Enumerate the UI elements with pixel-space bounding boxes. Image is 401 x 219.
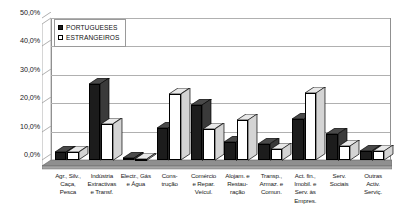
x-axis-label: Cons- trução <box>151 172 189 188</box>
x-axis-label: Serv. Sociais <box>320 172 358 188</box>
gridline <box>51 75 390 76</box>
legend-label-portugueses: PORTUGUESES <box>66 24 118 31</box>
x-axis-label: Alojam. e Restau- ração <box>219 172 257 197</box>
plot-right-border <box>390 18 391 160</box>
y-axis-tick-label: 30,0% <box>2 65 40 74</box>
legend-swatch-icon-portugueses <box>58 25 63 30</box>
gridline-depth-connector <box>42 40 51 48</box>
plot-left-border <box>51 18 52 160</box>
gridline-depth-connector <box>42 154 51 162</box>
x-axis-label: Agr., Silv., Caça, Pesca <box>49 172 87 197</box>
gridline-depth-connector <box>42 69 51 77</box>
legend-swatch-icon-estrangeiros <box>58 35 63 40</box>
y-axis-tick-label: 10,0% <box>2 122 40 131</box>
x-axis-label: Transp., Armaz. e Comun. <box>252 172 290 197</box>
x-axis-label: Indústria Extractivas e Transf. <box>83 172 121 197</box>
gridline <box>51 132 390 133</box>
x-axis-label: Electr., Gás e Água <box>117 172 155 188</box>
x-axis-label: Comércio e Repar. Veícul. <box>185 172 223 197</box>
y-axis-tick-label: 40,0% <box>2 36 40 45</box>
gridline <box>51 103 390 104</box>
legend-label-estrangeiros: ESTRANGEIROS <box>66 34 120 41</box>
bar-chart: 0,0%10,0%20,0%30,0%40,0%50,0% Agr., Silv… <box>0 0 401 219</box>
y-axis-tick-label: 20,0% <box>2 93 40 102</box>
gridline-depth-connector <box>42 126 51 134</box>
legend-item-portugueses: PORTUGUESES <box>58 22 121 32</box>
gridline-depth-connector <box>42 97 51 105</box>
x-axis-label: Act. fin., Imobil. e Serv. às Empres. <box>286 172 324 205</box>
legend-item-estrangeiros: ESTRANGEIROS <box>58 32 121 42</box>
plot-floor <box>42 155 392 171</box>
x-axis-label: Outras Activ. Serviç. <box>354 172 392 197</box>
y-axis-tick-label: 0,0% <box>2 150 40 159</box>
y-axis-tick-label: 50,0% <box>2 8 40 17</box>
chart-legend: PORTUGUESES ESTRANGEIROS <box>54 19 126 47</box>
gridline-depth-connector <box>42 12 51 20</box>
